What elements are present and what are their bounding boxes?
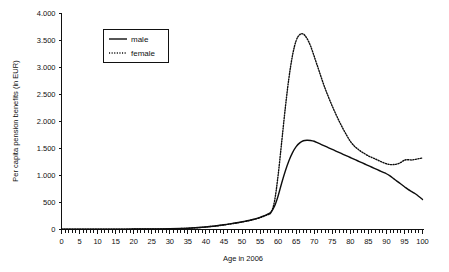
y-tick-label: 3.500 — [37, 36, 56, 45]
x-tick-label: 50 — [238, 237, 246, 246]
y-tick-label: 1.000 — [37, 171, 56, 180]
x-axis-major-ticks — [62, 230, 423, 235]
pension-benefits-chart: 05001.0001.5002.0002.5003.0003.5004.000 … — [0, 0, 449, 272]
x-tick-label: 60 — [274, 237, 282, 246]
x-tick-label: 40 — [202, 237, 210, 246]
y-tick-label: 1.500 — [37, 144, 56, 153]
x-axis-title: Age in 2006 — [223, 254, 263, 263]
x-tick-label: 35 — [184, 237, 192, 246]
x-tick-label: 100 — [416, 237, 429, 246]
x-tick-label: 10 — [93, 237, 101, 246]
x-tick-label: 25 — [148, 237, 156, 246]
y-tick-label: 0 — [51, 225, 55, 234]
legend-label-male: male — [131, 35, 149, 44]
y-tick-label: 3.000 — [37, 63, 56, 72]
x-tick-label: 55 — [256, 237, 264, 246]
x-tick-label: 70 — [310, 237, 318, 246]
x-tick-label: 95 — [400, 237, 408, 246]
chart-legend: male female — [104, 30, 169, 63]
y-tick-label: 500 — [43, 198, 56, 207]
y-tick-label: 2.500 — [37, 90, 56, 99]
x-tick-label: 5 — [77, 237, 81, 246]
x-tick-label: 75 — [328, 237, 336, 246]
chart-plot-area: 05001.0001.5002.0002.5003.0003.5004.000 … — [0, 0, 449, 272]
x-tick-label: 65 — [292, 237, 300, 246]
x-tick-label: 45 — [220, 237, 228, 246]
x-tick-label: 80 — [346, 237, 354, 246]
legend-label-female: female — [131, 49, 156, 58]
x-tick-label: 30 — [166, 237, 174, 246]
y-tick-label: 2.000 — [37, 117, 56, 126]
x-tick-label: 20 — [130, 237, 138, 246]
x-tick-label: 85 — [364, 237, 372, 246]
y-tick-label: 4.000 — [37, 9, 56, 18]
y-axis-title: Per capita pension benefits (in EUR) — [11, 60, 20, 182]
x-tick-label: 15 — [111, 237, 119, 246]
x-tick-label: 90 — [382, 237, 390, 246]
chart-background — [0, 0, 449, 272]
x-tick-label: 0 — [59, 237, 63, 246]
